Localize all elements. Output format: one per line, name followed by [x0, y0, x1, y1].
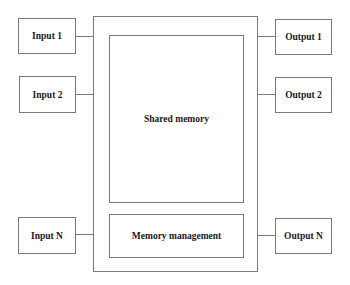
- input-n-connector: [76, 234, 93, 235]
- input-1-block: Input 1: [18, 18, 76, 54]
- shared-memory-label: Shared memory: [144, 114, 209, 124]
- input-2-connector: [76, 94, 93, 95]
- shared-memory-block: Shared memory: [109, 35, 244, 203]
- output-1-label: Output 1: [285, 32, 322, 42]
- memory-management-label: Memory management: [132, 231, 221, 241]
- output-n-label: Output N: [284, 231, 323, 241]
- input-2-label: Input 2: [33, 90, 63, 100]
- output-2-block: Output 2: [275, 77, 332, 113]
- input-1-connector: [76, 36, 93, 37]
- input-1-label: Input 1: [32, 31, 62, 41]
- memory-management-block: Memory management: [109, 214, 244, 258]
- output-1-connector: [257, 36, 275, 37]
- output-2-connector: [257, 94, 275, 95]
- output-n-block: Output N: [275, 218, 332, 254]
- output-2-label: Output 2: [285, 90, 322, 100]
- input-n-block: Input N: [18, 217, 76, 254]
- input-n-label: Input N: [31, 231, 63, 241]
- output-1-block: Output 1: [275, 19, 332, 55]
- output-n-connector: [257, 235, 275, 236]
- input-2-block: Input 2: [19, 76, 76, 113]
